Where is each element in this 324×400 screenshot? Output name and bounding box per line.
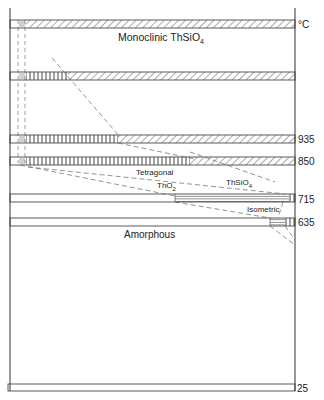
label-isometric: Isometric	[247, 205, 279, 214]
label-monoclinic: Monoclinic ThSiO4	[118, 31, 204, 45]
band-635	[10, 218, 295, 226]
tick-25: 25	[297, 383, 309, 394]
band-top	[10, 20, 295, 28]
band-935	[10, 135, 295, 143]
label-tetragonal: Tetragonal	[136, 168, 174, 177]
tick-715: 715	[298, 194, 315, 205]
label-amorphous: Amorphous	[124, 229, 175, 240]
label-thsio4: ThSiO4	[226, 178, 253, 189]
phase-diagram: Monoclinic ThSiO4 Tetragonal ThO2 ThSiO4…	[0, 0, 324, 400]
band-2	[10, 72, 295, 80]
band-25	[8, 384, 295, 391]
band-715	[10, 194, 295, 202]
axis-unit: °C	[298, 19, 309, 30]
transition-lines	[20, 58, 295, 245]
tick-850: 850	[298, 156, 315, 167]
tick-635: 635	[298, 217, 315, 228]
band-850	[10, 157, 295, 165]
tick-935: 935	[298, 134, 315, 145]
